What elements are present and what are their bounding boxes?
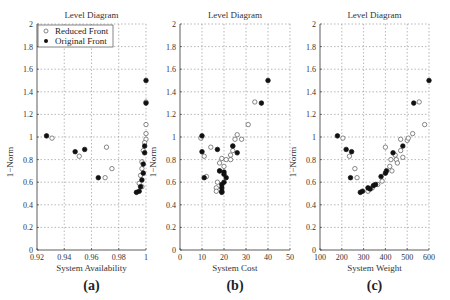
- data-point: [140, 178, 145, 183]
- y-tick-label: 0.4: [166, 201, 176, 210]
- data-point: [224, 175, 229, 180]
- data-point: [142, 151, 147, 156]
- y-tick-label: 1.2: [166, 110, 176, 119]
- data-point: [134, 190, 139, 195]
- data-point: [50, 136, 54, 140]
- data-point: [200, 149, 205, 154]
- x-tick-label: 40: [264, 253, 272, 262]
- data-point: [341, 136, 345, 140]
- data-point: [104, 145, 108, 149]
- x-tick-label: 10: [198, 253, 206, 262]
- data-point: [144, 101, 149, 106]
- legend-reduced-label: Reduced Front: [55, 26, 109, 36]
- data-point: [427, 78, 432, 83]
- series-original-front: [335, 78, 431, 194]
- data-point: [384, 169, 389, 174]
- x-tick-label: 0.96: [85, 253, 99, 262]
- x-tick-label: 600: [423, 253, 435, 262]
- x-tick-label: 20: [220, 253, 228, 262]
- data-point: [144, 122, 148, 126]
- panel-b: 0102030405000.20.40.60.811.21.41.61.82Le…: [148, 10, 294, 294]
- data-point: [398, 137, 402, 141]
- x-tick-label: 0: [178, 253, 182, 262]
- data-point: [391, 151, 396, 156]
- data-point: [217, 161, 221, 165]
- x-axis-label: System Weight: [347, 263, 402, 273]
- data-point: [389, 157, 393, 161]
- data-point: [138, 184, 143, 189]
- y-tick-label: 0.8: [166, 156, 176, 165]
- x-tick-label: 300: [358, 253, 370, 262]
- legend: Reduced FrontOriginal Front: [38, 25, 113, 47]
- data-point: [224, 157, 228, 161]
- data-point: [344, 147, 349, 152]
- x-tick-label: 0.98: [112, 253, 126, 262]
- y-tick-label: 1.2: [23, 110, 33, 119]
- data-point: [355, 175, 359, 179]
- x-tick-label: 200: [336, 253, 348, 262]
- y-tick-label: 0.6: [166, 178, 176, 187]
- panel-label: (a): [83, 278, 100, 294]
- series-original-front: [200, 78, 271, 194]
- data-point: [73, 149, 78, 154]
- level-diagram-figure: 0.920.940.960.98100.20.40.60.811.21.41.6…: [0, 0, 450, 300]
- y-tick-label: 0.4: [306, 201, 316, 210]
- data-point: [220, 190, 225, 195]
- data-point: [231, 144, 236, 149]
- series-reduced-front: [341, 100, 427, 194]
- data-point: [373, 182, 378, 187]
- data-point: [144, 78, 149, 83]
- legend-original-label: Original Front: [55, 36, 107, 46]
- open-circle-icon: [44, 29, 48, 33]
- x-axis-label: System Availability: [56, 263, 127, 273]
- y-tick-label: 1.4: [23, 88, 33, 97]
- data-point: [379, 174, 384, 179]
- panel-label: (c): [367, 278, 383, 294]
- y-tick-label: 1.8: [166, 43, 176, 52]
- data-point: [411, 101, 416, 106]
- data-point: [349, 149, 354, 154]
- data-point: [228, 153, 232, 157]
- x-axis-label: System Cost: [212, 263, 258, 273]
- y-tick-label: 1.6: [23, 65, 33, 74]
- x-tick-label: 400: [379, 253, 391, 262]
- y-tick-label: 0.2: [166, 223, 176, 232]
- x-tick-label: 50: [286, 253, 294, 262]
- data-point: [335, 134, 340, 139]
- data-point: [140, 166, 144, 170]
- plot-title: Level Diagram: [64, 10, 118, 20]
- data-point: [202, 154, 206, 158]
- data-point: [82, 147, 87, 152]
- y-tick-label: 1: [29, 133, 33, 142]
- data-point: [395, 161, 399, 165]
- data-point: [215, 147, 220, 152]
- y-tick-label: 1.4: [166, 88, 176, 97]
- y-tick-label: 2: [172, 20, 176, 29]
- y-tick-label: 0.8: [306, 156, 316, 165]
- series-original-front: [44, 78, 148, 194]
- y-tick-label: 1: [312, 133, 316, 142]
- data-point: [266, 78, 271, 83]
- data-point: [410, 131, 414, 135]
- y-tick-label: 0.6: [23, 178, 33, 187]
- data-point: [398, 148, 402, 152]
- data-point: [141, 171, 146, 176]
- data-point: [347, 154, 351, 158]
- panel-a: 0.920.940.960.98100.20.40.60.811.21.41.6…: [5, 10, 148, 294]
- x-tick-label: 30: [242, 253, 250, 262]
- y-tick-label: 0: [312, 246, 316, 255]
- y-tick-label: 0.6: [306, 178, 316, 187]
- data-point: [253, 100, 257, 104]
- data-point: [220, 156, 224, 160]
- data-point: [406, 136, 410, 140]
- data-point: [202, 175, 207, 180]
- data-point: [44, 134, 49, 139]
- data-point: [239, 137, 243, 141]
- data-point: [353, 166, 357, 170]
- data-point: [388, 164, 392, 168]
- data-point: [217, 169, 222, 174]
- data-point: [228, 157, 232, 161]
- data-point: [235, 151, 240, 156]
- y-tick-label: 1.6: [166, 65, 176, 74]
- data-point: [383, 145, 387, 149]
